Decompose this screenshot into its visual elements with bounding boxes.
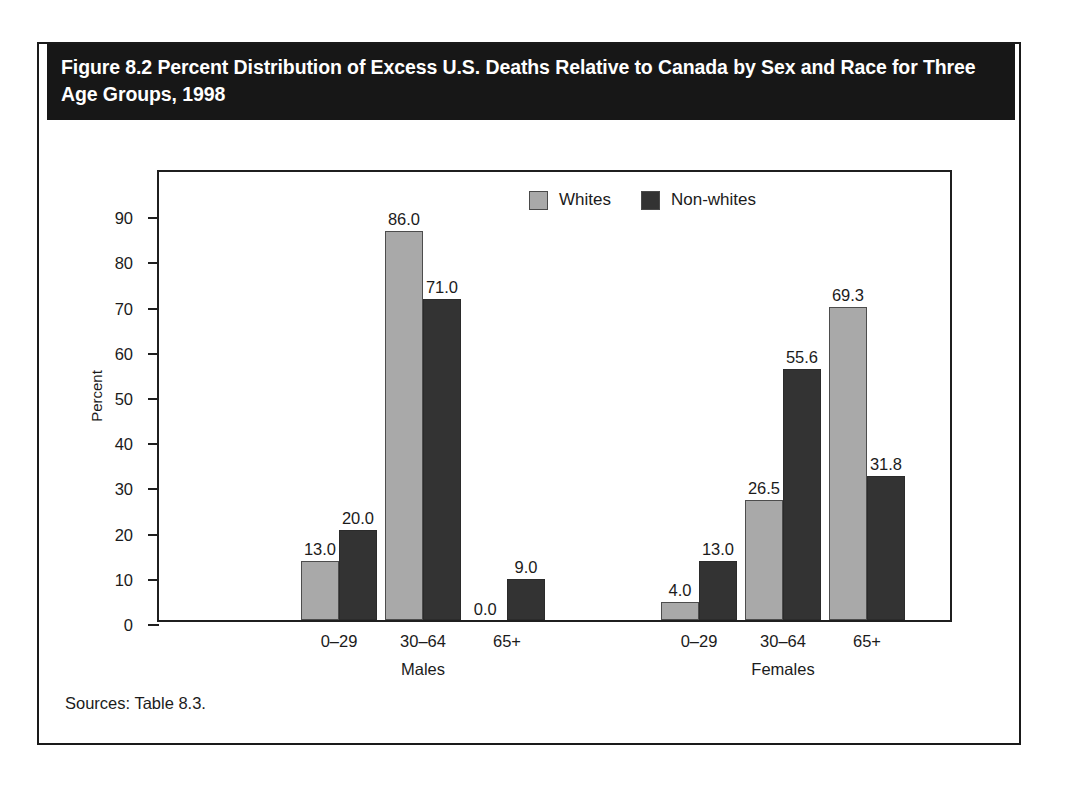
y-axis-tick: 90: [148, 217, 159, 219]
bar-value-label: 0.0: [474, 600, 497, 619]
y-axis-tick: 80: [148, 262, 159, 264]
x-axis-category-label: 65+: [493, 632, 521, 651]
bar-value-label: 55.6: [786, 348, 818, 367]
y-axis-tick: 10: [148, 579, 159, 581]
figure-title-banner: Figure 8.2 Percent Distribution of Exces…: [47, 44, 1015, 120]
y-axis-title: Percent: [88, 370, 105, 422]
bar: 55.6: [783, 369, 821, 620]
figure-container: Figure 8.2 Percent Distribution of Exces…: [37, 42, 1021, 745]
y-axis-tick-label: 70: [115, 299, 133, 318]
x-axis-group-label: Females: [751, 660, 814, 679]
source-note: Sources: Table 8.3.: [65, 694, 206, 713]
y-axis-tick: 0: [148, 624, 159, 626]
y-axis-tick: 70: [148, 308, 159, 310]
x-axis-group-label: Males: [401, 660, 445, 679]
bar-value-label: 4.0: [669, 581, 692, 600]
x-axis-category-label: 30–64: [400, 632, 446, 651]
y-axis-tick-label: 90: [115, 209, 133, 228]
bar-value-label: 31.8: [870, 455, 902, 474]
bar: 9.0: [507, 579, 545, 620]
x-axis-category-label: 0–29: [681, 632, 718, 651]
y-axis-tick-label: 40: [115, 435, 133, 454]
bar: 86.0: [385, 231, 423, 620]
bar-value-label: 71.0: [426, 278, 458, 297]
bar: 31.8: [867, 476, 905, 620]
bar-value-label: 86.0: [388, 210, 420, 229]
y-axis-tick-label: 30: [115, 480, 133, 499]
bar-value-label: 26.5: [748, 479, 780, 498]
bar: 69.3: [829, 307, 867, 620]
y-axis-tick-label: 80: [115, 254, 133, 273]
bar: 20.0: [339, 530, 377, 620]
y-axis-tick: 20: [148, 534, 159, 536]
bar: 13.0: [699, 561, 737, 620]
y-axis-tick-label: 60: [115, 344, 133, 363]
y-axis-tick: 30: [148, 488, 159, 490]
y-axis-tick: 60: [148, 353, 159, 355]
bar-value-label: 13.0: [304, 540, 336, 559]
bar: 71.0: [423, 299, 461, 620]
bar: 13.0: [301, 561, 339, 620]
y-axis-tick: 50: [148, 398, 159, 400]
bar: 26.5: [745, 500, 783, 620]
bar-value-label: 20.0: [342, 509, 374, 528]
x-axis-category-label: 0–29: [321, 632, 358, 651]
page-title: Figure 8.2 Percent Distribution of Exces…: [61, 56, 976, 105]
y-axis-tick-label: 20: [115, 525, 133, 544]
y-axis-tick-label: 0: [124, 616, 133, 635]
bar: 4.0: [661, 602, 699, 620]
plot-area: Percent 0102030405060708090 Whites Non-w…: [157, 170, 952, 622]
y-axis-tick: 40: [148, 443, 159, 445]
bar-value-label: 9.0: [515, 558, 538, 577]
bar-value-label: 69.3: [832, 286, 864, 305]
y-axis-tick-label: 10: [115, 570, 133, 589]
bars-layer: 13.020.086.071.00.09.04.013.026.555.669.…: [159, 172, 950, 620]
bar-value-label: 13.0: [702, 540, 734, 559]
y-axis-tick-label: 50: [115, 390, 133, 409]
x-axis-category-label: 30–64: [760, 632, 806, 651]
x-axis-category-label: 65+: [853, 632, 881, 651]
